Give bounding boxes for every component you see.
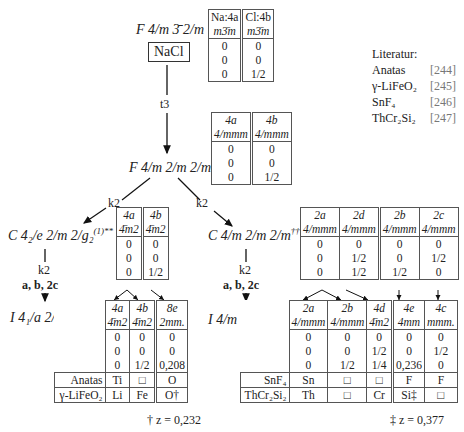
compound-row: SnF₄Sn□□FF — [241, 373, 458, 388]
coord: 0 — [117, 251, 143, 265]
transition-t3: t3 — [160, 97, 169, 112]
coord: 0 — [105, 344, 130, 358]
wyckoff-table-middle: 4a4b 4/mmm4/mmm 00 00 01/2 — [211, 112, 292, 185]
coord: 0 — [209, 53, 242, 67]
coord: 1/2 — [251, 170, 291, 185]
space-group-left2: C 4₂/e 2/m 2/g₂(1)** — [8, 228, 113, 244]
header: 2d — [339, 208, 379, 223]
coord: 1/2 — [339, 265, 379, 280]
literature-list: Literatur: Anatas[244] γ-LiFeO₂[245] SnF… — [372, 46, 456, 126]
coord: 1/2 — [142, 265, 168, 280]
compound-row: γ-LiFeO₂LiFeO† — [55, 388, 188, 403]
coord: 0 — [212, 156, 252, 170]
coord: 0 — [379, 251, 419, 265]
basis-left: a, b, 2c — [22, 278, 58, 293]
compound-row: ThCr₂Si₂Th□CrSi‡□ — [241, 388, 458, 403]
coord: 1/2 — [242, 67, 274, 82]
site-symmetry: 2mm. — [156, 315, 188, 330]
header: 4b — [130, 301, 156, 316]
coord: 0 — [251, 142, 291, 157]
site-symmetry: 4/mmm — [328, 315, 367, 330]
wyckoff-table-left2: 4a4b 4̄m24̄m2 00 00 01/2 — [116, 207, 169, 280]
coord: 0 — [212, 142, 252, 157]
site-symmetry: 4mm — [393, 315, 425, 330]
coord: 0 — [242, 53, 274, 67]
site-symmetry: 4/mmm — [379, 222, 419, 237]
site-symmetry: 4̄m2 — [130, 315, 156, 330]
coord: 1/2 — [419, 251, 458, 265]
transition-k2-left-down: k2 — [38, 263, 50, 278]
wyckoff-table-left3: 4a4b8e 4̄m24̄m22mm. 000 000 01/20,208 An… — [54, 300, 188, 403]
literature-entry: SnF₄[246] — [372, 94, 456, 110]
header: 4c — [424, 301, 457, 316]
header: 4b — [142, 208, 168, 223]
coord: 0 — [419, 237, 458, 252]
site-symmetry: 4/mmm — [301, 222, 340, 237]
site-symmetry: m3̄m — [242, 24, 274, 39]
transition-k2-right-down: k2 — [239, 263, 251, 278]
coord: 1/2 — [130, 358, 156, 373]
coord: 0 — [142, 237, 168, 252]
coord: 0 — [105, 358, 130, 373]
coord: 0 — [301, 265, 340, 280]
site-symmetry: 4/mmm — [251, 127, 291, 142]
coord: 0 — [301, 251, 340, 265]
header: 4b — [251, 113, 291, 128]
site-symmetry: 4̄m2 — [117, 222, 143, 237]
literature-entry: ThCr₂Si₂[247] — [372, 110, 456, 126]
space-group-right2: C 4/m 2/m 2/m†† — [208, 228, 300, 244]
coord: 1/2 — [339, 251, 379, 265]
coord: 0 — [379, 237, 419, 252]
header: 2a — [301, 208, 340, 223]
coord: 0 — [117, 237, 143, 252]
coord: 0 — [142, 251, 168, 265]
wyckoff-table-nacl: Na:4aCl:4b m3̄mm3̄m 00 00 01/2 — [208, 9, 274, 82]
coord: 0 — [419, 265, 458, 280]
header: 4a — [105, 301, 130, 316]
coord: 0 — [212, 170, 252, 185]
header: Na:4a — [209, 10, 242, 25]
site-symmetry: 4/mmm — [289, 315, 328, 330]
header: 4e — [393, 301, 425, 316]
header: 8e — [156, 301, 188, 316]
space-group-middle: F 4/m 2/m 2/m* — [129, 160, 216, 176]
compound-box-nacl: NaCl — [148, 42, 190, 62]
coord: 0 — [156, 344, 188, 358]
space-group-top: F 4/m 3̄ 2/m — [136, 22, 204, 38]
wyckoff-table-right2: 2a2d2b2c 4/mmm4/mmm4/mmm4/mmm 0000 01/20… — [300, 207, 459, 280]
coord: 0 — [251, 156, 291, 170]
site-symmetry: m3̄m — [209, 24, 242, 39]
site-symmetry: 4/mmm — [212, 127, 252, 142]
literature-entry: Anatas[244] — [372, 62, 456, 78]
literature-entry: γ-LiFeO₂[245] — [372, 78, 456, 94]
basis-right: a, b, 2c — [223, 278, 259, 293]
site-symmetry: 4/mmm — [419, 222, 458, 237]
coord: 0,208 — [156, 358, 188, 373]
coord: 0 — [209, 67, 242, 82]
literature-title: Literatur: — [372, 46, 456, 62]
transition-k2-right: k2 — [196, 196, 208, 211]
coord: 0 — [130, 344, 156, 358]
coord: 1/2 — [379, 265, 419, 280]
header: 4a — [212, 113, 252, 128]
site-symmetry: 4̄m2 — [105, 315, 130, 330]
header: Cl:4b — [242, 10, 274, 25]
compound-row: AnatasTi□O — [55, 373, 188, 388]
site-symmetry: 4̄m2 — [367, 315, 393, 330]
coord: 0 — [130, 330, 156, 345]
coord: 0 — [117, 265, 143, 280]
header: 2b — [379, 208, 419, 223]
header: 4d — [367, 301, 393, 316]
coord: 0 — [105, 330, 130, 345]
site-symmetry: 4/mmm — [339, 222, 379, 237]
site-symmetry: 4̄m2 — [142, 222, 168, 237]
footnote-left: † z = 0,232 — [147, 413, 201, 428]
wyckoff-table-right3: 2a2b4d4e4c 4/mmm4/mmm4̄m24mmmmm. 00000 0… — [240, 300, 458, 403]
coord: 0 — [209, 39, 242, 54]
header: 4a — [117, 208, 143, 223]
site-symmetry: mmm. — [424, 315, 457, 330]
coord: 0 — [242, 39, 274, 54]
header: 2b — [328, 301, 367, 316]
coord: 0 — [156, 330, 188, 345]
coord: 0 — [301, 237, 340, 252]
